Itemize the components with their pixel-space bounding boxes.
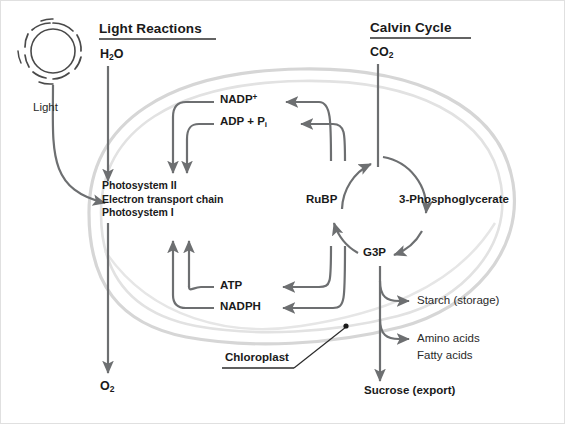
label-g3p: G3P: [363, 246, 386, 258]
label-atp: ATP: [220, 279, 242, 291]
sun-icon: [18, 19, 81, 84]
label-co2: CO2: [370, 46, 393, 60]
adp-pi-to-photosystem-arrow: [187, 124, 214, 173]
label-light: Light: [33, 101, 58, 113]
cycle-arc-rubp-to-co2: [342, 164, 371, 209]
label-adp-pi: ADP + Pi: [220, 115, 267, 129]
label-starch: Starch (storage): [417, 294, 499, 306]
label-photosystem-stack: Photosystem II Electron transport chain …: [102, 179, 223, 220]
cycle-arc-pga-to-g3p: [394, 231, 422, 255]
photosystem-to-atp-return: [189, 286, 214, 289]
chloroplast-leader-dot: [343, 323, 348, 328]
atp-to-cycle-arrow: [283, 246, 331, 287]
light-to-photosystem-arrow: [53, 85, 105, 203]
chloroplast-leader-line: [294, 327, 346, 368]
photosystem-to-nadph-return: [173, 295, 214, 308]
cycle-to-nadp-arrow: [286, 102, 331, 161]
label-oxygen: O2: [100, 380, 114, 394]
label-nadph: NADPH: [220, 300, 261, 312]
heading-light-reactions: Light Reactions: [99, 22, 202, 36]
label-rubp: RuBP: [306, 193, 337, 205]
nadp-to-photosystem-arrow: [173, 102, 214, 173]
label-sucrose: Sucrose (export): [364, 384, 455, 396]
label-water: H2O: [100, 48, 124, 62]
nadph-to-cycle-arrow: [283, 246, 345, 308]
label-nadp-plus: NADP+: [220, 93, 257, 105]
label-3-phosphoglycerate: 3-Phosphoglycerate: [399, 193, 509, 205]
cycle-to-adp-pi-arrow: [301, 124, 345, 161]
diagram-canvas: Light Reactions Calvin Cycle H2O CO2 Lig…: [0, 0, 565, 424]
heading-calvin-cycle: Calvin Cycle: [370, 21, 452, 35]
photosystem-i-line: Photosystem I: [102, 206, 223, 220]
photosystem-ii-line: Photosystem II: [102, 179, 223, 193]
label-amino-acids: Amino acids: [417, 332, 480, 344]
electron-transport-chain-line: Electron transport chain: [102, 193, 223, 207]
label-fatty-acids: Fatty acids: [417, 349, 473, 361]
label-chloroplast: Chloroplast: [225, 351, 289, 363]
